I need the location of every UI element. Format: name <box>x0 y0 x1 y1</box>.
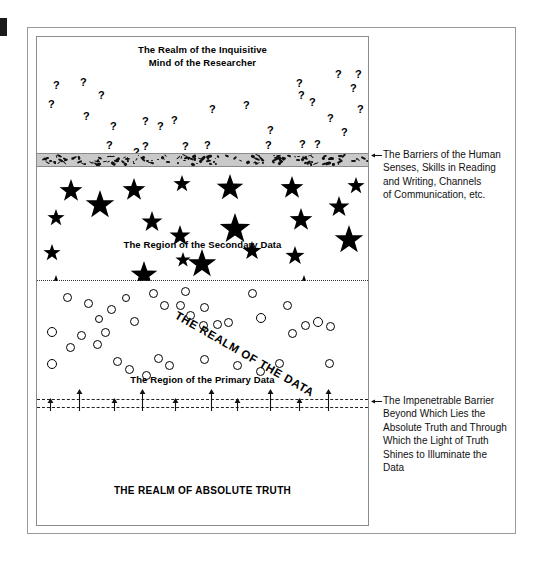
annotation-line: Absolute Truth and Through <box>383 422 507 433</box>
label-absolute-truth: THE REALM OF ABSOLUTE TRUTH <box>37 485 368 498</box>
annotation-line: and Writing, Channels <box>383 176 481 187</box>
leader-arrow-icon <box>371 398 382 405</box>
annotation-line: The Barriers of the Human <box>383 149 501 160</box>
annotation-impenetrable-barrier: The Impenetrable Barrier Beyond Which Li… <box>383 394 523 474</box>
annotation-line: Which the Light of Truth <box>383 435 489 446</box>
annotation-barriers-of-human-senses: The Barriers of the Human Senses, Skills… <box>383 148 523 202</box>
annotation-line: The Impenetrable Barrier <box>383 395 494 406</box>
annotation-line: Shines to Illuminate the <box>383 449 487 460</box>
annotation-line: of Communication, etc. <box>383 189 485 200</box>
annotation-line: Senses, Skills in Reading <box>383 162 496 173</box>
annotation-line: Data <box>383 462 404 473</box>
page-edge-mark <box>0 18 7 36</box>
leader-arrow-icon <box>371 152 382 159</box>
diagram-canvas: ????????????????????????????????? The Re… <box>36 36 369 526</box>
region-absolute-truth: THE REALM OF ABSOLUTE TRUTH <box>37 407 368 526</box>
annotation-line: Beyond Which Lies the <box>383 408 485 419</box>
